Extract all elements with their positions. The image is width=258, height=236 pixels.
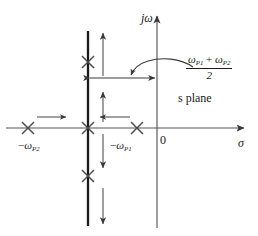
root-locus-svg bbox=[0, 0, 258, 236]
centroid-formula: ωP1 + ωP2 2 bbox=[186, 54, 232, 81]
sigma-axis-label: σ bbox=[238, 137, 244, 149]
centroid-omega-2: ω bbox=[215, 53, 223, 65]
centroid-omega-1-subscript: P1 bbox=[196, 59, 204, 66]
centroid-omega-2-subscript: P2 bbox=[223, 59, 231, 66]
pole-label-wp2: −ωP2 bbox=[18, 140, 40, 153]
pole-label-wp2-omega: ω bbox=[24, 139, 32, 151]
pole-label-wp2-subscript: P2 bbox=[32, 145, 40, 152]
origin-label: 0 bbox=[160, 134, 166, 146]
jomega-axis-label: jω bbox=[141, 12, 153, 24]
pole-label-wp1-omega: ω bbox=[116, 139, 124, 151]
pole-label-wp1: −ωP1 bbox=[110, 140, 132, 153]
root-locus-figure: jω σ 0 −ωP1 −ωP2 s plane ωP1 + ωP2 2 bbox=[0, 0, 258, 236]
centroid-leader-curve bbox=[131, 59, 193, 75]
centroid-omega-1: ω bbox=[188, 53, 196, 65]
centroid-numerator: ωP1 + ωP2 bbox=[186, 54, 232, 69]
centroid-denominator: 2 bbox=[186, 69, 232, 81]
centroid-plus-sign: + bbox=[206, 53, 212, 65]
pole-label-wp1-subscript: P1 bbox=[124, 145, 132, 152]
s-plane-label: s plane bbox=[178, 92, 212, 104]
